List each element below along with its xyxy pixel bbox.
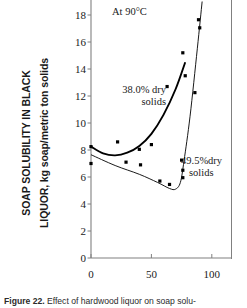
x-tick-label: 50: [136, 268, 166, 280]
chart-canvas: [0, 0, 247, 308]
data-point-marker: [181, 51, 184, 54]
series-49-annotation-line1: 49.5%dry: [181, 155, 241, 167]
y-tick-label: 2: [64, 226, 86, 237]
series-38-annotation-line2: solids: [98, 96, 166, 108]
y-tick-label: 6: [64, 172, 86, 183]
series-49-annotation-line2: solids: [181, 167, 241, 179]
x-tick-label: 0: [76, 268, 106, 280]
data-point-marker: [150, 143, 153, 146]
y-tick-label: 10: [64, 118, 86, 129]
data-point-marker: [184, 74, 187, 77]
y-tick-label: 12: [64, 91, 86, 102]
series-38-annotation-line1: 38.0% dry: [98, 84, 166, 96]
data-point-marker: [198, 26, 201, 29]
y-tick-label: 8: [64, 145, 86, 156]
series-fit-curve: [91, 62, 185, 155]
condition-annotation: At 90°C: [112, 6, 147, 18]
series-49-annotation: 49.5%dry solids: [181, 155, 241, 179]
data-point-marker: [124, 161, 127, 164]
data-point-marker: [89, 145, 92, 148]
y-tick-label: 14: [64, 64, 86, 75]
y-tick-label: 16: [64, 37, 86, 48]
series-38-annotation: 38.0% dry solids: [98, 84, 166, 108]
data-point-marker: [168, 183, 171, 186]
data-point-marker: [139, 163, 142, 166]
x-tick-label: 100: [197, 268, 227, 280]
data-point-marker: [197, 18, 200, 21]
data-point-marker: [89, 162, 92, 165]
figure-caption: Figure 22. Effect of hardwood liquor on …: [4, 296, 247, 306]
data-point-marker: [158, 179, 161, 182]
y-tick-label: 18: [64, 10, 86, 21]
y-tick-label: 0: [64, 253, 86, 264]
data-point-marker: [138, 148, 141, 151]
figure-caption-text: Effect of hardwood liquor on soap solu-: [45, 296, 196, 306]
data-point-marker: [193, 91, 196, 94]
data-point-marker: [116, 140, 119, 143]
figure-container: SOAP SOLUBILITY IN BLACK LIQUOR, kg soap…: [0, 0, 247, 308]
y-tick-label: 4: [64, 199, 86, 210]
figure-caption-label: Figure 22.: [4, 296, 45, 306]
